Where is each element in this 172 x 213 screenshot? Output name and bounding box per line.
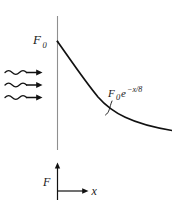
initial-value-marker [57,41,59,43]
curve-expression-exponential-e: e [121,87,126,99]
curve-expression-base: F [107,87,115,99]
exponential-decay-figure: F 0 F [0,0,172,213]
figure-container: F 0 F [0,0,172,213]
axis-label-horizontal: x [91,184,98,198]
axis-label-vertical: F [42,175,51,189]
initial-force-label-base: F [32,32,42,47]
curve-expression-exponent: −x/8 [127,85,142,94]
figure-background [0,0,172,213]
